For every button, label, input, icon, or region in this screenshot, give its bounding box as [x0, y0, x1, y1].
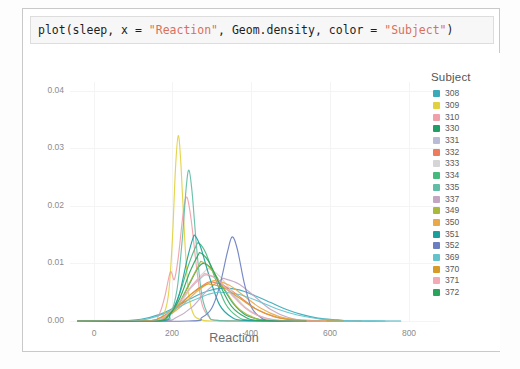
legend-item-label: 352	[445, 241, 459, 250]
code-token-1: "Reaction"	[149, 23, 218, 37]
legend-item-330[interactable]: 330	[433, 123, 500, 135]
legend-item-label: 334	[445, 171, 459, 180]
legend-item-label: 372	[445, 288, 459, 297]
density-curve-308	[78, 288, 401, 321]
legend-title: Subject	[431, 71, 500, 83]
legend-item-label: 350	[445, 218, 459, 227]
legend-item-label: 349	[445, 206, 459, 215]
code-input-cell[interactable]: plot(sleep, x = "Reaction", Geom.density…	[30, 16, 494, 44]
legend-item-372[interactable]: 372	[433, 287, 500, 299]
legend-swatch-icon	[433, 137, 440, 144]
legend-item-label: 310	[445, 113, 459, 122]
legend-item-333[interactable]: 333	[433, 158, 500, 170]
density-curve-349	[78, 261, 314, 321]
legend-swatch-icon	[433, 231, 440, 238]
legend-item-335[interactable]: 335	[433, 182, 500, 194]
legend-item-308[interactable]: 308	[433, 88, 500, 100]
code-token-2: , Geom.density, color =	[218, 23, 384, 37]
code-token-0: plot(sleep, x =	[38, 23, 149, 37]
legend-swatch-icon	[433, 149, 440, 156]
legend-item-label: 370	[445, 265, 459, 274]
legend-swatch-icon	[433, 207, 440, 214]
legend-item-350[interactable]: 350	[433, 217, 500, 229]
x-axis-title: Reaction	[24, 331, 444, 345]
legend-swatch-icon	[433, 277, 440, 284]
legend-item-351[interactable]: 351	[433, 228, 500, 240]
screenshot-root: plot(sleep, x = "Reaction", Geom.density…	[0, 0, 520, 369]
legend-item-label: 332	[445, 148, 459, 157]
legend-item-349[interactable]: 349	[433, 205, 500, 217]
legend-item-332[interactable]: 332	[433, 146, 500, 158]
legend-item-371[interactable]: 371	[433, 275, 500, 287]
legend-swatch-icon	[433, 102, 440, 109]
legend-swatch-icon	[433, 172, 440, 179]
plot-output: 0.000.010.020.030.04 0200400600800 React…	[24, 53, 500, 351]
legend-swatch-icon	[433, 219, 440, 226]
legend-swatch-icon	[433, 160, 440, 167]
code-token-3: "Subject"	[384, 23, 446, 37]
code-token-4: )	[447, 23, 454, 37]
legend-item-label: 333	[445, 159, 459, 168]
legend-item-label: 371	[445, 276, 459, 285]
legend-item-310[interactable]: 310	[433, 111, 500, 123]
legend-item-label: 309	[445, 101, 459, 110]
legend-item-label: 337	[445, 195, 459, 204]
legend-item-label: 351	[445, 230, 459, 239]
notebook-cell: plot(sleep, x = "Reaction", Geom.density…	[22, 8, 500, 352]
legend-item-label: 335	[445, 183, 459, 192]
legend-swatch-icon	[433, 125, 440, 132]
legend-swatch-icon	[433, 90, 440, 97]
legend-item-369[interactable]: 369	[433, 252, 500, 264]
code-source-line: plot(sleep, x = "Reaction", Geom.density…	[31, 24, 453, 36]
legend-swatch-icon	[433, 289, 440, 296]
legend-swatch-icon	[433, 196, 440, 203]
legend-item-352[interactable]: 352	[433, 240, 500, 252]
legend-swatch-icon	[433, 254, 440, 261]
legend-item-337[interactable]: 337	[433, 193, 500, 205]
legend-swatch-icon	[433, 266, 440, 273]
legend: Subject 30830931033033133233333433533734…	[428, 71, 500, 298]
legend-swatch-icon	[433, 184, 440, 191]
legend-item-label: 369	[445, 253, 459, 262]
legend-item-331[interactable]: 331	[433, 135, 500, 147]
legend-item-label: 330	[445, 124, 459, 133]
legend-swatch-icon	[433, 114, 440, 121]
legend-item-309[interactable]: 309	[433, 100, 500, 112]
legend-item-370[interactable]: 370	[433, 263, 500, 275]
legend-swatch-icon	[433, 242, 440, 249]
legend-items: 3083093103303313323333343353373493503513…	[428, 88, 500, 298]
legend-item-334[interactable]: 334	[433, 170, 500, 182]
legend-item-label: 308	[445, 89, 459, 98]
legend-item-label: 331	[445, 136, 459, 145]
